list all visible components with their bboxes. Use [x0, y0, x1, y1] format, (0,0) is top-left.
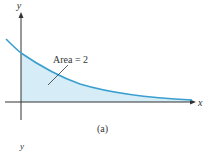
x-axis-label: x [197, 97, 203, 108]
figure-canvas: y x Area = 2 (a) y [0, 0, 208, 151]
y-axis-arrow-icon [19, 12, 24, 18]
figure-caption: (a) [97, 123, 108, 135]
shaded-area [21, 53, 192, 102]
next-panel-y-label: y [19, 141, 24, 151]
y-axis-label: y [16, 0, 22, 11]
area-annotation: Area = 2 [53, 54, 88, 65]
